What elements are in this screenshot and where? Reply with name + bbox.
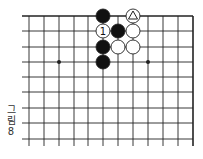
figure-caption: 그 림 8 — [4, 104, 18, 137]
black-stone — [96, 9, 110, 23]
caption-char-1: 그 — [4, 104, 18, 115]
go-board: 1 — [0, 0, 203, 159]
star-point — [146, 60, 150, 64]
caption-number: 8 — [4, 126, 18, 137]
black-stone — [96, 40, 110, 54]
star-point — [57, 60, 61, 64]
caption-char-2: 림 — [4, 115, 18, 126]
black-stone — [111, 24, 125, 38]
white-stone — [126, 24, 140, 38]
move-number: 1 — [100, 26, 106, 37]
black-stone — [96, 55, 110, 69]
white-stone — [126, 40, 140, 54]
white-stone — [111, 40, 125, 54]
